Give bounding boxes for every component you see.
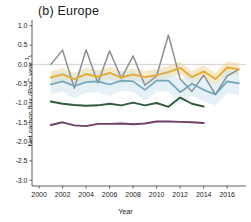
y-tick-label: -2.5 [15, 157, 27, 164]
x-tick-label: 2000 [31, 191, 47, 198]
x-tick-label: 2012 [172, 191, 188, 198]
x-tick-label: 2010 [149, 191, 165, 198]
y-tick-label: 0.5 [18, 41, 28, 48]
y-tick-label: -0.5 [15, 80, 27, 87]
chart-svg: 1.00.50.0-0.5-1.0-1.5-2.0-2.5-3.02000200… [0, 0, 251, 222]
y-tick-label: 0.0 [18, 61, 28, 68]
x-tick-label: 2002 [55, 191, 71, 198]
y-tick-label: -1.5 [15, 119, 27, 126]
chart-figure: (b) Europe Net carbon flux (Pg C year-1)… [0, 0, 251, 222]
plot-area: 1.00.50.0-0.5-1.0-1.5-2.0-2.5-3.02000200… [0, 0, 251, 222]
y-tick-label: -2.0 [15, 138, 27, 145]
x-tick-label: 2016 [219, 191, 235, 198]
y-tick-label: -1.0 [15, 99, 27, 106]
x-tick-label: 2004 [78, 191, 94, 198]
x-tick-label: 2008 [125, 191, 141, 198]
x-tick-label: 2006 [102, 191, 118, 198]
x-tick-label: 2014 [196, 191, 212, 198]
y-tick-label: -3.0 [15, 177, 27, 184]
y-tick-label: 1.0 [18, 22, 28, 29]
